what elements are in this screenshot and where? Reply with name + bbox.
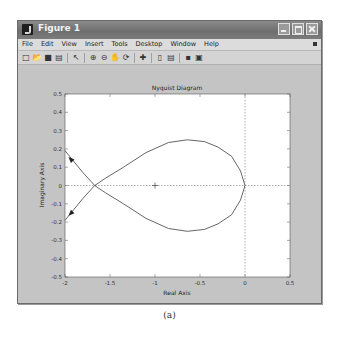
- y-tick-label: -0.2: [51, 219, 62, 225]
- y-tick-label: 0.3: [53, 128, 62, 134]
- x-tick-label: -1: [152, 280, 157, 286]
- x-axis-label: Real Axis: [163, 289, 190, 296]
- chart-title: Nyquist Diagram: [152, 84, 203, 92]
- y-tick-label: 0.2: [53, 146, 62, 152]
- x-tick-label: 0.5: [286, 280, 295, 286]
- x-tick-label: -2: [62, 280, 67, 286]
- y-tick-label: -0.5: [51, 274, 62, 280]
- y-tick-label: 0.5: [53, 91, 62, 97]
- y-axis-label: Imaginary Axis: [38, 163, 46, 208]
- y-tick-label: -0.4: [51, 256, 62, 262]
- x-tick-label: -1.5: [105, 280, 116, 286]
- y-tick-label: -0.3: [51, 237, 62, 243]
- nyquist-chart: Nyquist Diagram -2-1.5-1-0.500.50.50.40.…: [0, 0, 339, 339]
- y-tick-label: -0.1: [51, 201, 62, 207]
- x-tick-label: 0: [243, 280, 247, 286]
- x-tick-label: -0.5: [195, 280, 206, 286]
- y-tick-label: 0.4: [53, 109, 62, 115]
- y-tick-label: 0: [59, 183, 63, 189]
- y-tick-label: 0.1: [53, 164, 62, 170]
- figure-caption: (a): [0, 310, 339, 320]
